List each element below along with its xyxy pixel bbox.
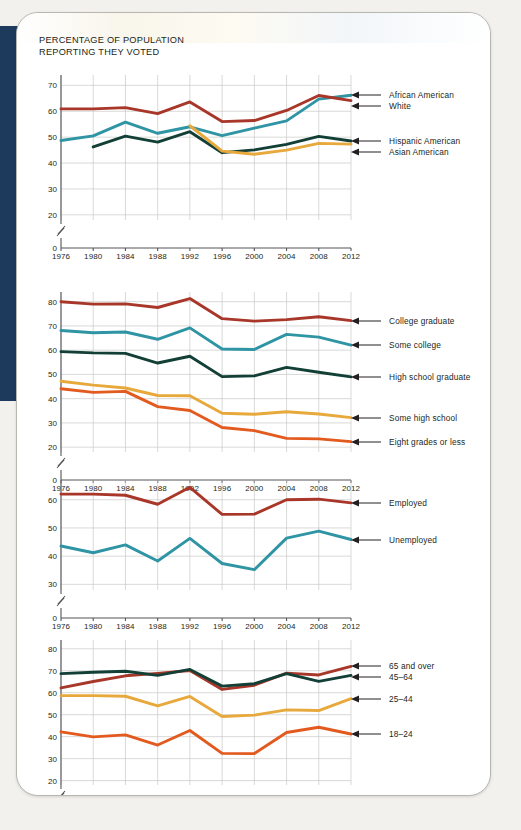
legend-arrow-icon	[351, 728, 385, 740]
legend-label: 45–64	[389, 672, 413, 682]
series-line	[61, 531, 351, 570]
y-tick-label: 40	[35, 732, 57, 741]
series-line	[61, 352, 351, 377]
legend-label: Some high school	[389, 413, 457, 423]
y-tick-label: 60	[35, 688, 57, 697]
legend-label: Asian American	[389, 147, 449, 157]
legend-label: Employed	[389, 498, 427, 508]
series-line	[61, 328, 351, 350]
legend-label: Hispanic American	[389, 136, 460, 146]
legend-label: White	[389, 101, 411, 111]
legend-label: High school graduate	[389, 372, 470, 382]
y-tick-label: 50	[35, 370, 57, 379]
legend-arrow-icon	[351, 339, 385, 351]
y-tick-label: 40	[35, 394, 57, 403]
series-line	[61, 381, 351, 417]
y-tick-label: 60	[35, 495, 57, 504]
y-tick-label: 30	[35, 184, 57, 193]
x-tick-label: 2012	[331, 622, 371, 631]
legend-arrow-icon	[351, 412, 385, 424]
axis-break-symbol	[57, 458, 65, 468]
plot-area-race-ethnicity	[17, 73, 490, 264]
y-tick-label: 80	[35, 297, 57, 306]
y-tick-label: 30	[35, 580, 57, 589]
legend-label: 25–44	[389, 694, 413, 704]
y-tick-label: 50	[35, 523, 57, 532]
y-tick-label: 70	[35, 321, 57, 330]
legend-arrow-icon	[351, 100, 385, 112]
y-tick-label: 60	[35, 346, 57, 355]
series-line	[61, 389, 351, 442]
y-tick-label: 40	[35, 159, 57, 168]
y-tick-label: 30	[35, 754, 57, 763]
y-tick-label: 20	[35, 210, 57, 219]
legend-label: Some college	[389, 340, 441, 350]
y-tick-label: 30	[35, 418, 57, 427]
axis-break-symbol	[57, 791, 65, 796]
legend-arrow-icon	[351, 693, 385, 705]
chart-age-group: 2030405060708001976198019841988199219962…	[17, 638, 490, 796]
legend-label: College graduate	[389, 316, 455, 326]
legend-arrow-icon	[351, 534, 385, 546]
series-line	[61, 727, 351, 753]
y-tick-label: 20	[35, 776, 57, 785]
y-tick-label: 20	[35, 443, 57, 452]
y-tick-label: 70	[35, 666, 57, 675]
page-title: PERCENTAGE OF POPULATION REPORTING THEY …	[39, 35, 184, 58]
legend-arrow-icon	[351, 146, 385, 158]
legend-label: Eight grades or less	[389, 437, 465, 447]
legend-arrow-icon	[351, 315, 385, 327]
legend-label: 65 and over	[389, 661, 434, 671]
y-tick-label: 50	[35, 133, 57, 142]
chart-race-ethnicity: 2030405060700197619801984198819921996200…	[17, 73, 490, 258]
legend-label: 18–24	[389, 729, 413, 739]
y-tick-label: 70	[35, 81, 57, 90]
series-line	[61, 487, 351, 514]
legend-arrow-icon	[351, 671, 385, 683]
legend-arrow-icon	[351, 371, 385, 383]
series-line	[61, 95, 351, 121]
legend-label: Unemployed	[389, 535, 437, 545]
axis-break-symbol	[57, 596, 65, 606]
legend-label: African American	[389, 90, 454, 100]
y-tick-label: 40	[35, 552, 57, 561]
chart-education: 2030405060708001976198019841988199219962…	[17, 290, 490, 490]
legend-arrow-icon	[351, 497, 385, 509]
series-line	[190, 126, 351, 154]
legend-arrow-icon	[351, 436, 385, 448]
chart-employment-status: 3040506001976198019841988199219962000200…	[17, 478, 490, 628]
y-tick-label: 50	[35, 710, 57, 719]
figure-card: PERCENTAGE OF POPULATION REPORTING THEY …	[16, 12, 491, 796]
axis-break-symbol	[57, 226, 65, 236]
y-tick-label: 80	[35, 644, 57, 653]
series-line	[61, 696, 351, 717]
x-tick-label: 2012	[331, 252, 371, 261]
y-tick-label: 60	[35, 107, 57, 116]
series-line	[61, 669, 351, 686]
